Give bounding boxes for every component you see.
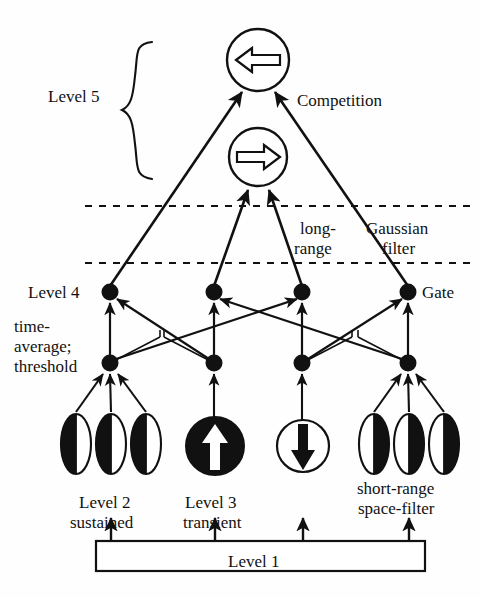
inner-connections	[214, 190, 302, 286]
transient-up-cell[interactable]	[186, 417, 244, 475]
level2-label-line2: sustained	[70, 513, 134, 532]
long-range-label-line1: long-	[300, 219, 336, 238]
level4-node[interactable]	[400, 284, 417, 301]
level1-label: Level 1	[228, 552, 279, 571]
level4-label: Level 4	[28, 283, 80, 302]
short-range-label-line1: short-range	[357, 479, 434, 498]
threshold-node[interactable]	[206, 355, 223, 372]
sustained-cell[interactable]	[96, 414, 126, 474]
cell-to-threshold-connections	[76, 374, 444, 420]
level5-brace	[122, 42, 152, 179]
time-average-label-line2: average;	[14, 337, 72, 356]
level4-node[interactable]	[102, 284, 119, 301]
sustained-cell[interactable]	[61, 414, 91, 474]
gate-label: Gate	[422, 283, 454, 302]
level2-label-line1: Level 2	[79, 493, 130, 512]
level4-node[interactable]	[206, 284, 223, 301]
transient-down-cell[interactable]	[277, 420, 329, 472]
sustained-cell[interactable]	[131, 414, 161, 474]
level3-label-line1: Level 3	[185, 493, 236, 512]
diagram-canvas: Level 5 Competition long- range Gaussian…	[0, 0, 480, 598]
long-range-connections	[110, 92, 408, 286]
level4-node[interactable]	[294, 284, 311, 301]
threshold-node[interactable]	[294, 355, 311, 372]
time-average-label-line1: time-	[14, 317, 50, 336]
space-filter-label-line2: space-filter	[358, 499, 435, 518]
level2-sustained-cells	[61, 414, 161, 474]
right-arrow-circle[interactable]	[229, 128, 287, 186]
short-range-space-filter-cells	[359, 414, 459, 474]
competition-label: Competition	[297, 91, 383, 110]
threshold-node-row	[102, 355, 417, 372]
network-diagram: Level 5 Competition long- range Gaussian…	[0, 0, 480, 598]
level1-feed-arrows	[111, 518, 409, 541]
space-filter-cell[interactable]	[359, 414, 389, 474]
level3-label-line2: transient	[183, 513, 242, 532]
gaussian-filter-label-line2: filter	[382, 239, 415, 258]
threshold-node[interactable]	[102, 355, 119, 372]
level5-label: Level 5	[48, 87, 99, 106]
level4-node-row	[102, 284, 417, 301]
gaussian-filter-label-line1: Gaussian	[366, 219, 429, 238]
space-filter-cell[interactable]	[394, 414, 424, 474]
threshold-node[interactable]	[400, 355, 417, 372]
left-arrow-circle[interactable]	[227, 29, 289, 91]
long-range-label-line2: range	[294, 239, 332, 258]
cross-connections	[116, 299, 402, 359]
threshold-label-line3: threshold	[14, 357, 78, 376]
space-filter-cell[interactable]	[429, 414, 459, 474]
